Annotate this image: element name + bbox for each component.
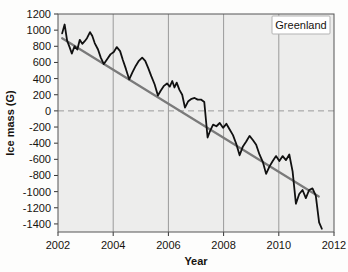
y-tick-label: -1000 bbox=[23, 186, 51, 198]
y-tick-label: -1200 bbox=[23, 202, 51, 214]
y-tick-label: 800 bbox=[33, 40, 51, 52]
x-tick-label: 2006 bbox=[156, 239, 180, 251]
x-tick-label: 2004 bbox=[101, 239, 125, 251]
chart-figure: -1400-1200-1000-800-600-400-200020040060… bbox=[0, 0, 348, 272]
x-axis-ticks: 200220042006200820102012 bbox=[46, 232, 346, 251]
y-tick-label: 600 bbox=[33, 56, 51, 68]
y-tick-label: 1200 bbox=[27, 8, 51, 20]
legend: Greenland bbox=[272, 16, 330, 34]
y-tick-label: -1400 bbox=[23, 218, 51, 230]
y-tick-label: 1000 bbox=[27, 24, 51, 36]
x-tick-label: 2012 bbox=[322, 239, 346, 251]
plot-background bbox=[58, 14, 334, 232]
y-axis-title: Ice mass (G) bbox=[4, 90, 16, 156]
y-tick-label: 200 bbox=[33, 89, 51, 101]
x-tick-label: 2010 bbox=[267, 239, 291, 251]
x-tick-label: 2002 bbox=[46, 239, 70, 251]
legend-label: Greenland bbox=[275, 19, 326, 31]
y-tick-label: -800 bbox=[29, 169, 51, 181]
y-tick-label: -600 bbox=[29, 153, 51, 165]
y-tick-label: -200 bbox=[29, 121, 51, 133]
y-tick-label: 400 bbox=[33, 73, 51, 85]
y-tick-label: -400 bbox=[29, 137, 51, 149]
x-axis-title: Year bbox=[184, 255, 208, 267]
ice-mass-line-chart: -1400-1200-1000-800-600-400-200020040060… bbox=[0, 0, 348, 272]
y-tick-label: 0 bbox=[45, 105, 51, 117]
y-axis-ticks: -1400-1200-1000-800-600-400-200020040060… bbox=[23, 8, 58, 230]
x-tick-label: 2008 bbox=[211, 239, 235, 251]
